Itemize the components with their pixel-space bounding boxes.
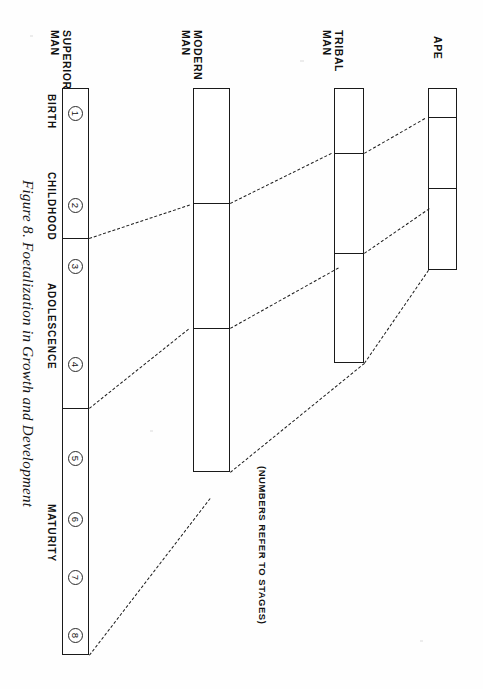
bar-modern-man bbox=[193, 88, 230, 472]
column-title-modern-man: MODERN MAN bbox=[180, 30, 203, 80]
bar-tribal-man bbox=[334, 88, 364, 363]
stage-number-6: 6 bbox=[68, 512, 83, 527]
divider-ape-1 bbox=[428, 117, 457, 118]
column-title-line1: SUPERIOR bbox=[61, 30, 73, 90]
stage-label-maturity: MATURITY bbox=[46, 504, 57, 562]
numbers-note: (NUMBERS REFER TO STAGES) bbox=[257, 466, 268, 624]
scan-speck bbox=[300, 60, 304, 62]
stage-number-2: 2 bbox=[68, 198, 83, 213]
connector-tribal-ape-2 bbox=[364, 208, 430, 254]
column-title-superior-man: SUPERIOR MAN bbox=[49, 30, 72, 90]
figure-caption: Figure 8. Foetalization in Growth and De… bbox=[19, 180, 36, 507]
divider-superior-man-1 bbox=[62, 238, 89, 239]
stage-number-8: 8 bbox=[68, 628, 83, 643]
column-title-line1: TRIBAL bbox=[333, 30, 345, 72]
stage-label-birth: BIRTH bbox=[46, 94, 57, 129]
connector-modern-tribal-bottom bbox=[230, 363, 365, 473]
divider-modern-man-1 bbox=[193, 203, 230, 204]
connector-modern-tribal-1 bbox=[230, 153, 332, 204]
scan-speck bbox=[420, 640, 423, 642]
column-title-line2: MAN bbox=[49, 30, 61, 90]
figure-page: Figure 8. Foetalization in Growth and De… bbox=[0, 0, 483, 689]
scan-speck bbox=[150, 430, 153, 432]
column-title-ape: APE bbox=[432, 36, 444, 59]
divider-tribal-man-2 bbox=[334, 253, 364, 254]
stage-label-adolescence: ADOLESCENCE bbox=[46, 283, 57, 370]
scan-speck bbox=[30, 35, 33, 37]
column-title-tribal-man: TRIBAL MAN bbox=[321, 30, 344, 72]
column-title-line2: MAN bbox=[321, 30, 333, 72]
column-title-line1: APE bbox=[432, 36, 444, 59]
connector-superior-modern-2 bbox=[89, 329, 189, 409]
column-title-line1: MODERN bbox=[192, 30, 204, 80]
divider-tribal-man-1 bbox=[334, 153, 364, 154]
divider-superior-man-2 bbox=[62, 408, 89, 409]
column-title-line2: MAN bbox=[180, 30, 192, 80]
connector-superior-modern-1 bbox=[89, 205, 190, 239]
stage-number-7: 7 bbox=[68, 570, 83, 585]
connector-superior-modern-bottom bbox=[89, 498, 211, 656]
divider-ape-2 bbox=[428, 188, 457, 189]
stage-label-childhood: CHILDHOOD bbox=[46, 172, 57, 241]
stage-number-5: 5 bbox=[68, 451, 83, 466]
bar-ape bbox=[428, 88, 457, 270]
stage-number-4: 4 bbox=[68, 357, 83, 372]
connector-tribal-ape-1 bbox=[364, 118, 425, 154]
connector-tribal-ape-bottom bbox=[364, 270, 429, 363]
divider-modern-man-2 bbox=[193, 328, 230, 329]
connector-modern-tribal-2 bbox=[230, 268, 338, 329]
stage-number-1: 1 bbox=[68, 106, 83, 121]
stage-number-3: 3 bbox=[68, 259, 83, 274]
